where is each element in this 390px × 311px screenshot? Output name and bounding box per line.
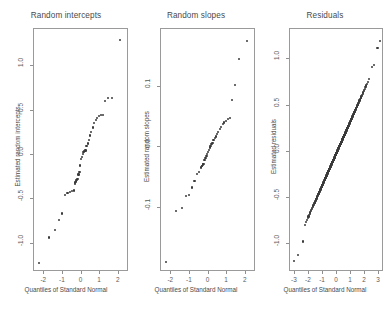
- data-point: [82, 153, 84, 155]
- data-point: [368, 78, 370, 80]
- x-tick: [43, 271, 44, 274]
- x-tick: [189, 271, 190, 274]
- x-tick-label: -1: [186, 276, 192, 283]
- data-point: [175, 210, 177, 212]
- x-tick-label: 1: [348, 276, 352, 283]
- x-tick-label: 2: [243, 276, 247, 283]
- data-point: [79, 164, 81, 166]
- data-point: [76, 178, 78, 180]
- data-point: [234, 84, 236, 86]
- data-point: [111, 97, 113, 99]
- data-point: [102, 114, 104, 116]
- y-tick-label: -0.5: [13, 192, 28, 199]
- data-point: [58, 219, 60, 221]
- x-tick-label: -1: [59, 276, 65, 283]
- y-tick-label: -1.0: [13, 237, 28, 244]
- x-tick-label: -2: [40, 276, 46, 283]
- x-tick: [294, 271, 295, 274]
- y-tick-label: 0.0: [13, 148, 28, 155]
- data-point: [246, 40, 248, 42]
- plot-area-residuals: [289, 28, 383, 271]
- x-tick-label: 2: [116, 276, 120, 283]
- scatter-points-residuals: [290, 29, 382, 270]
- data-point: [38, 262, 40, 264]
- panel-random-intercepts: Random intercepts Quantiles of Standard …: [0, 0, 132, 311]
- data-point: [198, 171, 200, 173]
- x-tick: [170, 271, 171, 274]
- y-tick-label: 1.0: [269, 52, 284, 59]
- x-tick: [226, 271, 227, 274]
- x-tick: [208, 271, 209, 274]
- data-point: [78, 171, 80, 173]
- y-tick: [30, 198, 33, 199]
- data-point: [107, 97, 109, 99]
- y-tick-label: 0.0: [140, 140, 155, 147]
- scatter-points-random-intercepts: [34, 29, 127, 270]
- data-point: [367, 81, 369, 83]
- x-tick: [378, 271, 379, 274]
- data-point: [81, 156, 83, 158]
- qq-plot-figure: Random intercepts Quantiles of Standard …: [0, 0, 390, 311]
- panel-residuals: Residuals Quantiles of Standard Normal E…: [260, 0, 390, 311]
- data-point: [188, 194, 190, 196]
- data-point: [376, 47, 378, 49]
- data-point: [80, 158, 82, 160]
- x-tick: [364, 271, 365, 274]
- data-point: [196, 173, 198, 175]
- y-tick-label: -0.1: [140, 201, 155, 208]
- data-point: [302, 240, 304, 242]
- data-point: [215, 135, 217, 137]
- data-point: [293, 260, 295, 262]
- data-point: [64, 194, 66, 196]
- data-point: [93, 122, 95, 124]
- x-axis-title-residuals: Quantiles of Standard Normal: [260, 286, 390, 293]
- data-point: [208, 149, 210, 151]
- x-tick-label: 2: [362, 276, 366, 283]
- data-point: [104, 100, 106, 102]
- data-point: [119, 39, 121, 41]
- y-tick-label: 0.5: [269, 99, 284, 106]
- data-point: [205, 155, 207, 157]
- data-point: [85, 145, 87, 147]
- x-tick: [81, 271, 82, 274]
- data-point: [220, 126, 222, 128]
- data-point: [89, 134, 91, 136]
- y-tick: [286, 105, 289, 106]
- y-tick: [30, 243, 33, 244]
- y-tick-label: 0.1: [140, 80, 155, 87]
- data-point: [216, 133, 218, 135]
- data-point: [84, 149, 86, 151]
- data-point: [238, 58, 240, 60]
- data-point: [306, 219, 308, 221]
- data-point: [297, 254, 299, 256]
- plot-area-random-slopes: [160, 28, 255, 271]
- scatter-points-random-slopes: [161, 29, 254, 270]
- x-tick-label: 1: [97, 276, 101, 283]
- y-tick-label: -1.0: [269, 237, 284, 244]
- data-point: [191, 186, 193, 188]
- data-point: [229, 117, 231, 119]
- data-point: [305, 221, 307, 223]
- panel-title-residuals: Residuals: [260, 11, 390, 20]
- x-tick-label: 1: [224, 276, 228, 283]
- x-tick-label: -2: [305, 276, 311, 283]
- x-axis-title-random-slopes: Quantiles of Standard Normal: [132, 286, 260, 293]
- x-tick: [350, 271, 351, 274]
- x-tick-label: 0: [79, 276, 83, 283]
- x-tick: [99, 271, 100, 274]
- data-point: [87, 142, 89, 144]
- y-tick: [286, 58, 289, 59]
- y-tick: [286, 197, 289, 198]
- panel-title-random-intercepts: Random intercepts: [0, 11, 132, 20]
- x-tick-label: 3: [376, 276, 380, 283]
- data-point: [217, 131, 219, 133]
- data-point: [366, 83, 368, 85]
- x-tick-label: 0: [206, 276, 210, 283]
- data-point: [212, 139, 214, 141]
- data-point: [204, 157, 206, 159]
- data-point: [73, 189, 75, 191]
- x-tick: [336, 271, 337, 274]
- y-tick: [157, 86, 160, 87]
- panel-random-slopes: Random slopes Quantiles of Standard Norm…: [132, 0, 260, 311]
- x-tick: [308, 271, 309, 274]
